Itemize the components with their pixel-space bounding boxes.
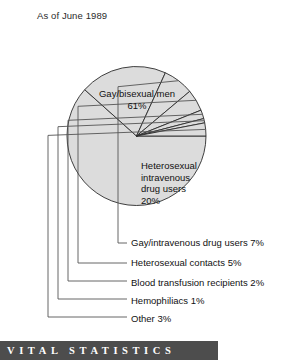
slice-label-heterosexual-iv-drug-users: Heterosexual intravenous drug users 20% xyxy=(141,160,197,206)
slice-label-heterosexual-line2: intravenous xyxy=(141,172,197,184)
vital-statistics-banner-text: VITAL STATISTICS xyxy=(7,345,175,356)
slice-label-gay-bisexual-men: Gay/bisexual men 61% xyxy=(0,88,274,111)
leader-label-heterosexual-contacts: Heterosexual contacts 5% xyxy=(131,257,241,268)
slice-label-heterosexual-percent: 20% xyxy=(141,195,197,207)
slice-label-heterosexual-line1: Heterosexual xyxy=(141,160,197,172)
leader-label-hemophiliacs: Hemophiliacs 1% xyxy=(131,295,204,306)
slice-label-gay-bisexual-men-percent: 61% xyxy=(0,100,274,112)
leader-label-other: Other 3% xyxy=(131,313,171,324)
pie-chart: Gay/bisexual men 61% Heterosexual intrav… xyxy=(0,0,289,340)
slice-label-gay-bisexual-men-name: Gay/bisexual men xyxy=(99,88,175,99)
vital-statistics-banner: VITAL STATISTICS xyxy=(0,341,218,360)
slice-label-heterosexual-line3: drug users xyxy=(141,183,197,195)
leader-label-blood-transfusion-recipients: Blood transfusion recipients 2% xyxy=(131,277,264,288)
leader-label-gay-iv-drug-users: Gay/intravenous drug users 7% xyxy=(131,237,264,248)
